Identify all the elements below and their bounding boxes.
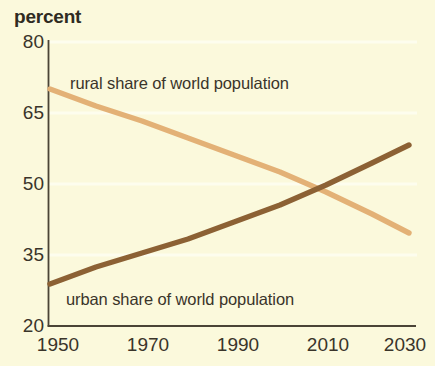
x-tick-1950: 1950	[37, 334, 79, 356]
x-tick-2010: 2010	[307, 334, 349, 356]
chart-plot-area	[0, 0, 435, 366]
x-tick-1970: 1970	[127, 334, 169, 356]
series-line-urban	[50, 145, 409, 284]
series-label-rural: rural share of world population	[70, 74, 289, 93]
x-tick-2030: 2030	[384, 334, 426, 356]
x-tick-1990: 1990	[217, 334, 259, 356]
chart-container: percent 80 65 50 35 20 1950 1970 1990 20…	[0, 0, 435, 366]
series-label-urban: urban share of world population	[66, 290, 294, 309]
series-line-rural	[50, 89, 409, 233]
